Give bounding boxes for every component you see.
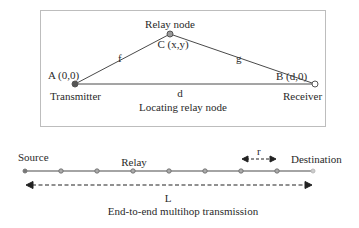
relay-location-diagram xyxy=(0,0,359,228)
relay-node-title: Relay node xyxy=(145,18,195,30)
top-panel-caption: Locating relay node xyxy=(139,101,227,113)
transmitter-node xyxy=(72,81,78,87)
receiver-coords: B (d,0) xyxy=(276,70,307,82)
transmitter-label: Transmitter xyxy=(50,90,101,102)
source-label: Source xyxy=(18,151,49,163)
relay-label: Relay xyxy=(121,156,147,168)
edge-d-label: d xyxy=(177,87,183,99)
relay-hop-node xyxy=(275,169,279,173)
relay-hop-node xyxy=(131,169,135,173)
relay-hop-node xyxy=(59,169,63,173)
relay-hop-node xyxy=(95,169,99,173)
bottom-panel-caption: End-to-end multihop transmission xyxy=(108,205,258,217)
total-distance-label: L xyxy=(165,192,172,204)
transmitter-coords: A (0,0) xyxy=(48,69,79,81)
receiver-node xyxy=(312,81,318,87)
relay-hop-node xyxy=(239,169,243,173)
edge-f-label: f xyxy=(118,52,122,64)
destination-label: Destination xyxy=(291,153,342,165)
destination-node xyxy=(311,169,315,173)
relay-node xyxy=(167,31,173,37)
edge-f xyxy=(75,34,170,84)
relay-hop-node xyxy=(167,169,171,173)
source-node xyxy=(23,169,27,173)
edge-g-label: g xyxy=(236,52,242,64)
hop-distance-label: r xyxy=(257,145,261,157)
receiver-label: Receiver xyxy=(283,90,322,102)
relay-hop-node xyxy=(203,169,207,173)
total-distance-arrow xyxy=(26,182,312,189)
relay-node-coords: C (x,y) xyxy=(157,38,188,50)
